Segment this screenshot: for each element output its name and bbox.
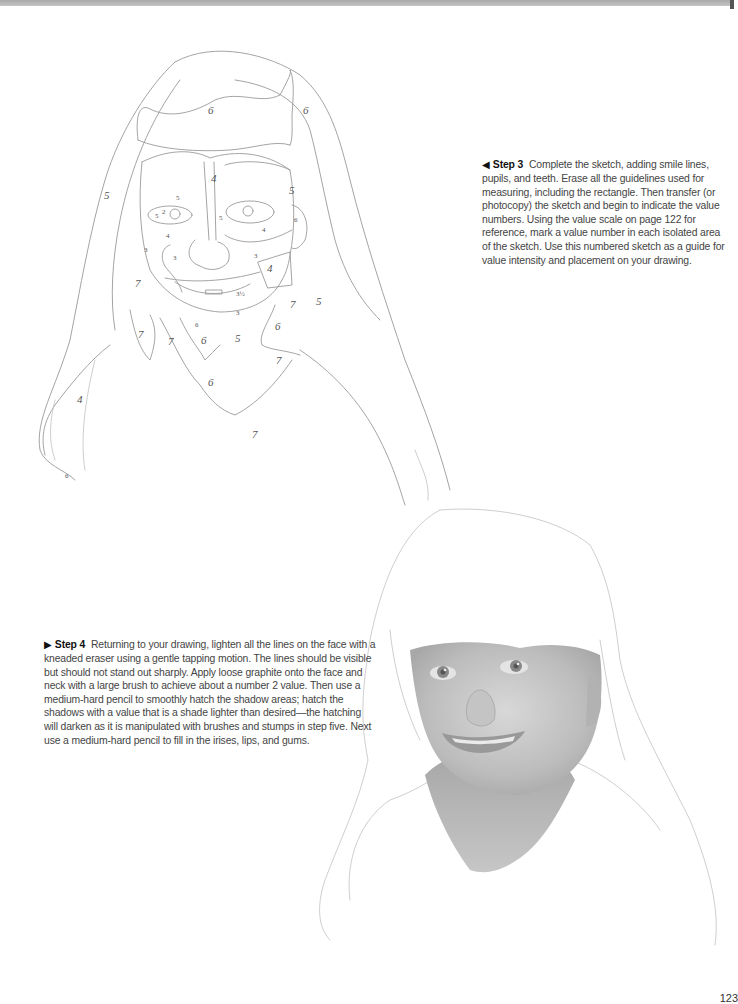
step-4-label: Step 4: [55, 639, 85, 650]
step-3-text: Complete the sketch, adding smile lines,…: [482, 159, 725, 265]
step-4-caption: ▶Step 4 Returning to your drawing, light…: [44, 638, 376, 747]
right-arrow-icon: ▶: [44, 639, 52, 650]
left-arrow-icon: ◀: [482, 159, 490, 170]
step-3-caption: ◀Step 3 Complete the sketch, adding smil…: [482, 158, 726, 267]
step-3-label: Step 3: [493, 159, 523, 170]
page-number: 123: [720, 992, 738, 1004]
step-4-text: Returning to your drawing, lighten all t…: [44, 639, 375, 745]
